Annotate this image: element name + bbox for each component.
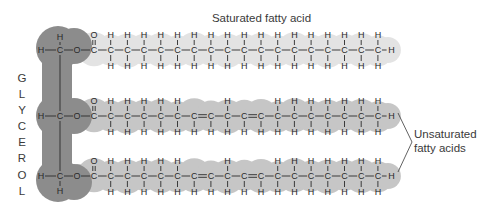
hydrogen-atom: H (107, 187, 114, 197)
hydrogen-atom: H (325, 187, 332, 197)
hydrogen-atom: H (358, 96, 365, 106)
hydrogen-atom: H (358, 127, 365, 137)
hydrogen-atom: H (258, 127, 265, 137)
carbon-atom: C (208, 171, 215, 181)
carbon-atom: C (325, 111, 332, 121)
hydrogen-atom: H (375, 127, 382, 137)
carbon-atom: C (274, 111, 281, 121)
hydrogen-atom: H (174, 127, 181, 137)
hydrogen-atom: H (158, 96, 165, 106)
hydrogen-atom: H (274, 127, 281, 137)
hydrogen-atom: H (325, 127, 332, 137)
hydrogen-atom: H (291, 96, 298, 106)
hydrogen-atom: H (274, 96, 281, 106)
hydrogen-atom: H (141, 96, 148, 106)
terminal-hydrogen-atom: H (388, 111, 395, 121)
hydrogen-atom: H (208, 187, 215, 197)
hydrogen-atom: H (358, 156, 365, 166)
carbon-atom: C (158, 171, 165, 181)
hydrogen-atom: H (341, 61, 348, 71)
hydrogen-atom: H (158, 156, 165, 166)
hydrogen-atom: H (274, 156, 281, 166)
carbon-atom: C (341, 111, 348, 121)
hydrogen-atom: H (308, 30, 315, 40)
hydrogen-atom: H (291, 61, 298, 71)
unsaturated-label-line2: fatty acids (414, 141, 477, 155)
hydrogen-atom: H (38, 171, 45, 181)
carbon-atom: C (274, 171, 281, 181)
carbon-atom: C (57, 45, 64, 55)
hydrogen-atom: H (291, 156, 298, 166)
label-pointer-lines (398, 113, 412, 172)
saturated-fatty-acid-label: Saturated fatty acid (212, 12, 311, 24)
carbon-atom: C (358, 111, 365, 121)
pointer-line-lower (398, 142, 412, 172)
hydrogen-atom: H (291, 127, 298, 137)
hydrogen-atom: H (191, 30, 198, 40)
hydrogen-atom: H (124, 187, 131, 197)
carbon-atom: C (274, 45, 281, 55)
hydrogen-atom: H (107, 61, 114, 71)
hydrogen-atom: H (325, 156, 332, 166)
hydrogen-atom: H (341, 187, 348, 197)
carbon-atom: C (191, 171, 198, 181)
hydrogen-atom: H (124, 127, 131, 137)
carbon-atom: C (174, 111, 181, 121)
terminal-hydrogen-atom: H (388, 45, 395, 55)
carbon-atom: C (258, 45, 265, 55)
carbon-atom: C (291, 171, 298, 181)
hydrogen-atom: H (174, 30, 181, 40)
unsaturated-label-line1: Unsaturated (414, 127, 477, 141)
ester-oxygen-atom: O (73, 171, 80, 181)
glycerol-letter: L (16, 86, 28, 102)
hydrogen-atom: H (208, 30, 215, 40)
carbon-atom: C (208, 45, 215, 55)
ester-oxygen-atom: O (73, 111, 80, 121)
carbon-atom: C (325, 45, 332, 55)
hydrogen-atom: H (375, 61, 382, 71)
hydrogen-atom: H (341, 30, 348, 40)
carbon-atom: C (91, 171, 98, 181)
glycerol-letter: C (16, 118, 28, 134)
hydrogen-atom: H (107, 96, 114, 106)
hydrogen-atom: H (141, 156, 148, 166)
carbon-atom: C (291, 45, 298, 55)
hydrogen-atom: H (241, 30, 248, 40)
carbon-atom: C (325, 171, 332, 181)
hydrogen-atom: H (274, 61, 281, 71)
carbon-atom: C (57, 171, 64, 181)
hydrogen-atom: H (141, 30, 148, 40)
hydrogen-atom: H (308, 187, 315, 197)
hydrogen-atom: H (358, 61, 365, 71)
hydrogen-atom: H (308, 96, 315, 106)
carbonyl-oxygen-atom: O (90, 156, 97, 166)
hydrogen-atom: H (325, 61, 332, 71)
hydrogen-atom: H (124, 156, 131, 166)
carbon-atom: C (358, 45, 365, 55)
carbon-atom: C (341, 171, 348, 181)
carbon-atom: C (258, 171, 265, 181)
carbon-atom: C (291, 111, 298, 121)
hydrogen-atom: H (224, 156, 231, 166)
carbon-atom: C (107, 171, 114, 181)
carbon-atom: C (158, 111, 165, 121)
glycerol-letter: R (16, 150, 28, 166)
hydrogen-atom: H (258, 30, 265, 40)
carbon-atom: C (174, 171, 181, 181)
hydrogen-atom: H (124, 61, 131, 71)
hydrogen-atom: H (341, 127, 348, 137)
ester-oxygen-atom: O (73, 45, 80, 55)
carbon-atom: C (91, 45, 98, 55)
carbon-atom: C (241, 171, 248, 181)
carbon-atom: C (124, 171, 131, 181)
hydrogen-atom: H (274, 30, 281, 40)
hydrogen-atom: H (258, 61, 265, 71)
space-filling-blobs (67, 32, 401, 194)
carbon-atom: C (174, 45, 181, 55)
glycerol-letter: G (16, 70, 28, 86)
hydrogen-atom: H (341, 96, 348, 106)
hydrogen-atom: H (241, 187, 248, 197)
hydrogen-atom: H (241, 127, 248, 137)
carbon-atom: C (341, 45, 348, 55)
hydrogen-atom: H (241, 61, 248, 71)
